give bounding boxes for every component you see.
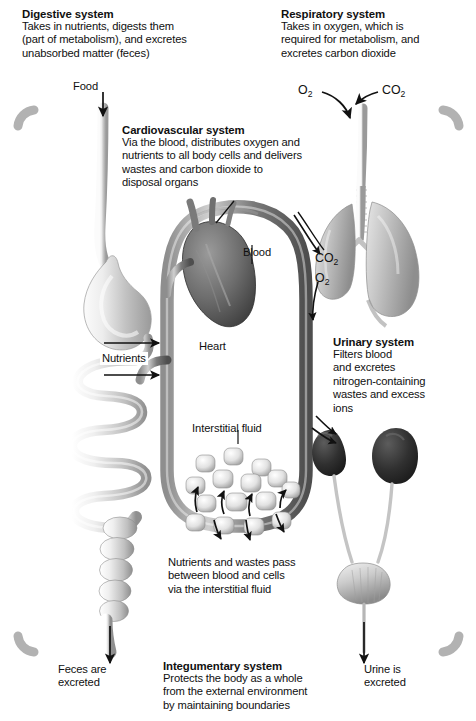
label-o2-from-lungs: O2 [315,271,329,286]
urinary-line-1: Filters blood [333,348,425,361]
respiratory-line-2: required for metabolism, and [281,33,419,46]
respiratory-heading: Respiratory system [281,8,419,20]
label-co2-to-lungs: CO2 [315,251,338,266]
exchange-note-line-3: via the interstitial fluid [168,583,295,596]
callout-urinary-system: Urinary system Filters blood and excrete… [333,336,425,415]
integumentary-line-2: from the external environment [163,685,307,698]
label-nutrients: Nutrients [100,352,148,365]
heart-organ [167,200,256,327]
callout-integumentary-system: Integumentary system Protects the body a… [163,660,307,712]
note-exchange: Nutrients and wastes pass between blood … [168,556,295,596]
renal-flow-arrows [312,416,336,443]
cardiovascular-line-4: disposal organs [122,176,302,189]
urinary-line-5: ions [333,402,425,415]
integumentary-heading: Integumentary system [163,660,307,672]
label-co2-exhaled: CO2 [382,83,405,98]
respiratory-line-3: excretes carbon dioxide [281,47,419,60]
integumentary-line-3: by maintaining boundaries [163,699,307,712]
gas-exchange-arrows-top [322,92,378,118]
figure-canvas: Digestive system Takes in nutrients, dig… [0,0,476,721]
digestive-heading: Digestive system [22,8,187,20]
respiratory-line-1: Takes in oxygen, which is [281,20,419,33]
digestive-line-3: unabsorbed matter (feces) [22,47,187,60]
cardiovascular-heading: Cardiovascular system [122,124,302,136]
feces-line-1: Feces are [58,663,106,676]
blood-vessel-loop [140,207,306,526]
gas-exchange-arrows-lung [294,212,324,320]
exchange-note-line-1: Nutrients and wastes pass [168,556,295,569]
cardiovascular-line-1: Via the blood, distributes oxygen and [122,136,302,149]
leader-lines [216,201,252,444]
label-interstitial-fluid: Interstitial fluid [192,422,262,435]
label-food: Food [73,80,98,93]
large-intestine [99,517,137,652]
urinary-organs [312,428,418,652]
integumentary-line-1: Protects the body as a whole [163,672,307,685]
respiratory-organs [316,108,419,326]
callout-cardiovascular-system: Cardiovascular system Via the blood, dis… [122,124,302,190]
cardiovascular-line-2: nutrients to all body cells and delivers [122,149,302,162]
urinary-line-4: wastes and excess [333,388,425,401]
digestive-line-2: (part of metabolism), and excretes [22,33,187,46]
callout-digestive-system: Digestive system Takes in nutrients, dig… [22,8,187,60]
callout-respiratory-system: Respiratory system Takes in oxygen, whic… [281,8,419,60]
digestive-line-1: Takes in nutrients, digests them [22,20,187,33]
label-urine-excreted: Urine is excreted [364,663,406,690]
label-blood: Blood [243,246,271,259]
label-feces-excreted: Feces are excreted [58,663,106,690]
tissue-cells-cluster [186,448,300,540]
urine-line-2: excreted [364,676,406,689]
feces-line-2: excreted [58,676,106,689]
urinary-line-2: and excretes [333,361,425,374]
cardiovascular-line-3: wastes and carbon dioxide to [122,163,302,176]
exchange-note-line-2: between blood and cells [168,569,295,582]
urine-line-1: Urine is [364,663,406,676]
label-o2-inhaled: O2 [298,83,312,98]
urinary-line-3: nitrogen-containing [333,375,425,388]
label-heart: Heart [199,340,226,353]
urinary-heading: Urinary system [333,336,425,348]
